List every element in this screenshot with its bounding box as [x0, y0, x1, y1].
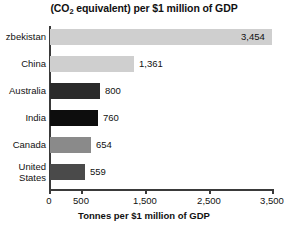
category-label-india: India: [0, 112, 46, 123]
bar-row: Canada 654: [0, 136, 288, 162]
x-tick-label-500: 500: [73, 195, 89, 206]
x-tick-label-3500: 3,500: [260, 195, 284, 206]
x-tick: [209, 189, 211, 194]
x-tick-label-0: 0: [46, 195, 51, 206]
bar-value-canada: 654: [96, 137, 112, 153]
x-tick-label-1500: 1,500: [133, 195, 157, 206]
x-axis-line: [49, 189, 273, 191]
bar-value-uzbekistan: 3,454: [241, 29, 265, 45]
chart-container: (CO2 equivalent) per $1 million of GDP z…: [0, 0, 288, 231]
bar-china: [50, 56, 134, 72]
x-tick: [81, 189, 83, 194]
x-tick: [49, 189, 51, 194]
bar-row: Australia 800: [0, 82, 288, 108]
bar-value-china: 1,361: [139, 56, 163, 72]
category-label-united-states: United States: [0, 161, 46, 183]
bar-value-united-states: 559: [90, 164, 106, 180]
bar-row: China 1,361: [0, 55, 288, 81]
bar-uzbekistan: [50, 29, 272, 45]
category-label-australia: Australia: [0, 85, 46, 96]
bar-row: zbekistan 3,454: [0, 28, 288, 54]
bar-row: United States 559: [0, 163, 288, 189]
bar-united-states: [50, 164, 85, 180]
category-label-canada: Canada: [0, 139, 46, 150]
x-tick: [145, 189, 147, 194]
x-axis: 0 500 1,500 2,500 3,500 Tonnes per $1 mi…: [0, 189, 288, 231]
bar-australia: [50, 83, 100, 99]
category-label-china: China: [0, 58, 46, 69]
chart-title: (CO2 equivalent) per $1 million of GDP: [0, 2, 288, 16]
bar-row: India 760: [0, 109, 288, 135]
chart-title-suffix: equivalent) per $1 million of GDP: [73, 2, 237, 14]
bar-value-india: 760: [103, 110, 119, 126]
x-tick: [272, 189, 274, 194]
bar-value-australia: 800: [105, 83, 121, 99]
x-axis-title: Tonnes per $1 million of GDP: [0, 210, 288, 221]
category-label-uzbekistan: zbekistan: [0, 31, 46, 42]
chart-title-prefix: (CO: [50, 2, 69, 14]
bar-canada: [50, 137, 91, 153]
bar-india: [50, 110, 98, 126]
chart-title-subscript: 2: [69, 7, 73, 16]
x-tick-label-2500: 2,500: [197, 195, 221, 206]
plot-area: zbekistan 3,454 China 1,361 Australia 80…: [0, 26, 288, 191]
